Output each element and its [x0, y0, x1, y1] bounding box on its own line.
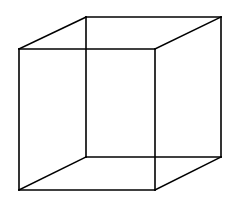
cube-edge-front-top-left-to-back-top-left	[19, 17, 86, 49]
cube-edge-front-bottom-left-to-back-bottom-left	[19, 157, 86, 190]
cube-edge-front-bottom-right-to-back-bottom-right	[155, 157, 221, 190]
cube-edge-front-top-right-to-back-top-right	[155, 17, 221, 49]
necker-cube-diagram	[0, 0, 233, 199]
